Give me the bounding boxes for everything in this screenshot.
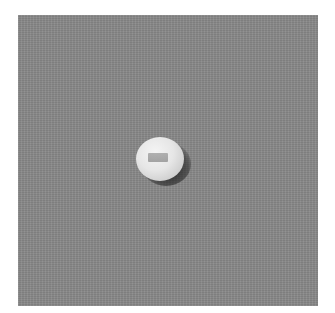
pill-imprint bbox=[148, 153, 168, 162]
round-white-pill bbox=[136, 137, 184, 181]
gray-background-photo bbox=[18, 15, 318, 306]
